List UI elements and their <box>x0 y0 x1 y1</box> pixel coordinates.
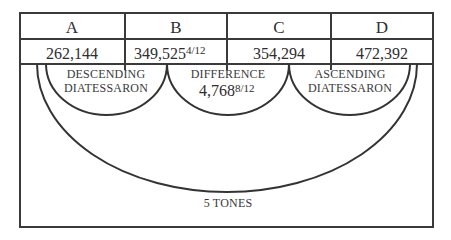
difference-label: DIFFERENCE <box>191 67 266 81</box>
difference-value: 4,7688/12 <box>199 82 255 99</box>
column-value-d: 472,392 <box>356 45 408 62</box>
column-value-b-fraction: 4/12 <box>186 44 206 56</box>
ascending-label-line1: ASCENDING <box>314 67 385 81</box>
five-tones-label: 5 TONES <box>204 196 253 210</box>
difference-value-integer: 4,768 <box>199 82 235 99</box>
column-value-b: 349,5254/12 <box>134 44 206 62</box>
ascending-label-line2: DIATESSARON <box>308 81 392 95</box>
column-header-a: A <box>66 18 79 37</box>
column-header-c: C <box>273 18 284 37</box>
interval-diagram: A B C D 262,144 349,5254/12 354,294 472,… <box>0 0 451 240</box>
descending-label-line2: DIATESSARON <box>64 81 148 95</box>
descending-label-line1: DESCENDING <box>67 67 146 81</box>
column-value-b-integer: 349,525 <box>134 45 186 62</box>
column-header-b: B <box>170 18 181 37</box>
column-value-c: 354,294 <box>253 45 305 62</box>
column-header-d: D <box>376 18 388 37</box>
difference-value-fraction: 8/12 <box>235 82 255 94</box>
column-value-a: 262,144 <box>46 45 98 62</box>
